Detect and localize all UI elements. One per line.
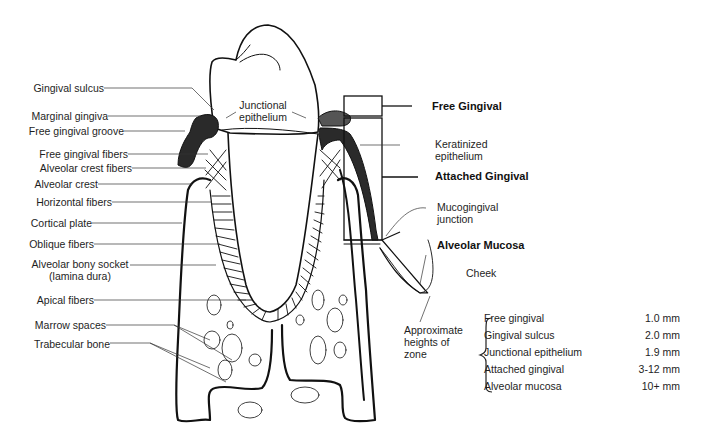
- label-alveolar-crest-fibers: Alveolar crest fibers: [40, 162, 132, 174]
- label-apical-fibers: Apical fibers: [37, 294, 94, 306]
- label-marrow-spaces: Marrow spaces: [35, 319, 106, 331]
- zone-row: Gingival sulcus: [484, 329, 555, 341]
- label-approx-line1: Approximate: [404, 324, 463, 336]
- label-cheek: Cheek: [466, 267, 496, 279]
- tooth-periodontium-drawing: [0, 0, 702, 448]
- label-mucogingival-line1: Mucogingival: [437, 201, 498, 213]
- label-junctional-line1: Junctional: [228, 99, 298, 111]
- label-gingival-sulcus: Gingival sulcus: [33, 82, 104, 94]
- zone-row: Free gingival: [484, 312, 544, 324]
- zone-row: Attached gingival: [484, 363, 564, 375]
- label-approx-line3: zone: [404, 348, 427, 360]
- label-attached-gingival: Attached Gingival: [435, 170, 529, 182]
- zone-name: Attached gingival: [484, 363, 564, 375]
- label-oblique-fibers: Oblique fibers: [29, 238, 94, 250]
- zone-height: 10+ mm: [620, 380, 680, 392]
- zone-name: Alveolar mucosa: [484, 380, 562, 392]
- label-trabecular-bone: Trabecular bone: [34, 338, 110, 350]
- label-keratinized-line2: epithelium: [435, 150, 483, 162]
- zone-height: 1.0 mm: [620, 312, 680, 324]
- zone-row: Alveolar mucosa: [484, 380, 562, 392]
- zone-name: Free gingival: [484, 312, 544, 324]
- zone-name: Junctional epithelium: [484, 346, 582, 358]
- label-free-gingival: Free Gingival: [432, 100, 502, 112]
- label-cortical-plate: Cortical plate: [31, 217, 92, 229]
- tooth-root: [228, 133, 318, 312]
- zone-name: Gingival sulcus: [484, 329, 555, 341]
- label-mucogingival-line2: junction: [437, 213, 473, 225]
- left-gingiva: [178, 115, 218, 168]
- label-free-gingival-groove: Free gingival groove: [29, 125, 124, 137]
- zone-row: Junctional epithelium: [484, 346, 582, 358]
- label-free-gingival-fibers: Free gingival fibers: [39, 148, 128, 160]
- label-approx-line2: heights of: [404, 336, 450, 348]
- label-marginal-gingiva: Marginal gingiva: [32, 110, 108, 122]
- label-alveolar-bony-socket: Alveolar bony socket: [30, 258, 130, 270]
- zone-height: 3-12 mm: [620, 363, 680, 375]
- zone-height: 2.0 mm: [620, 329, 680, 341]
- right-alveolar-bone: [282, 178, 375, 421]
- label-alveolar-mucosa: Alveolar Mucosa: [437, 239, 524, 251]
- label-junctional-line2: epithelium: [228, 111, 298, 123]
- label-keratinized-line1: Keratinized: [435, 138, 488, 150]
- label-lamina-dura: (lamina dura): [30, 270, 130, 282]
- label-horizontal-fibers: Horizontal fibers: [36, 196, 112, 208]
- label-alveolar-crest: Alveolar crest: [34, 178, 98, 190]
- zone-height: 1.9 mm: [620, 346, 680, 358]
